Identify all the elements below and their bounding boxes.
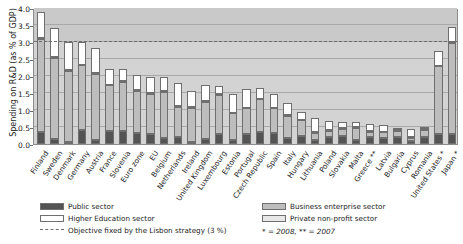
chart-legend: Public sectorHigher Education sectorObje… <box>0 200 463 244</box>
bar-segment <box>160 77 169 92</box>
bar-segment <box>91 140 100 144</box>
bar-segment <box>338 122 347 128</box>
bar-column[interactable] <box>133 75 142 144</box>
legend-item[interactable]: Objective fixed by the Lisbon strategy (… <box>40 226 226 235</box>
bar-column[interactable] <box>105 69 114 144</box>
bar-segment <box>78 130 87 144</box>
bar-segment <box>434 134 443 144</box>
bar-segment <box>133 133 142 144</box>
legend-item[interactable]: Private non-profit sector <box>262 214 377 223</box>
y-tick-label: 3.0 <box>4 39 30 48</box>
bar-segment <box>270 133 279 144</box>
bar-column[interactable] <box>352 122 361 144</box>
bar-segment <box>160 138 169 144</box>
bar-segment <box>297 112 306 119</box>
bar-column[interactable] <box>201 85 210 144</box>
bar-segment <box>215 86 224 95</box>
bar-segment <box>229 94 238 113</box>
bar-segment <box>270 94 279 107</box>
bar-segment <box>366 132 375 137</box>
legend-label: Private non-profit sector <box>290 214 377 223</box>
bar-column[interactable] <box>325 121 334 144</box>
bar-segment <box>242 134 251 144</box>
bar-column[interactable] <box>393 129 402 144</box>
legend-label: Objective fixed by the Lisbon strategy (… <box>68 226 226 235</box>
bar-column[interactable] <box>366 124 375 144</box>
bar-segment <box>37 39 46 133</box>
bar-segment <box>448 134 457 144</box>
bar-segment <box>434 51 443 66</box>
plot-area <box>33 9 458 145</box>
bar-segment <box>50 58 59 140</box>
bar-column[interactable] <box>297 112 306 144</box>
y-axis-ticks: 0.00.51.01.52.02.53.03.54.0 <box>0 0 30 146</box>
legend-item[interactable]: Higher Education sector <box>40 214 155 223</box>
bar-column[interactable] <box>448 27 457 144</box>
bar-column[interactable] <box>91 48 100 144</box>
bar-column[interactable] <box>160 77 169 144</box>
bar-segment <box>311 140 320 144</box>
bar-column[interactable] <box>256 88 265 144</box>
bar-segment <box>297 136 306 144</box>
bar-segment <box>229 113 238 139</box>
bar-segment <box>448 27 457 42</box>
bar-column[interactable] <box>311 118 320 144</box>
bar-segment <box>174 83 183 106</box>
bar-segment <box>119 82 128 131</box>
bar-column[interactable] <box>174 83 183 144</box>
bar-column[interactable] <box>215 86 224 144</box>
legend-item[interactable]: Public sector <box>40 202 114 211</box>
bar-segment <box>283 103 292 115</box>
bar-segment <box>420 137 429 144</box>
y-tick-label: 0.0 <box>4 141 30 150</box>
rd-spending-chart: Spending on R&D (as % of GDP) 0.00.51.01… <box>0 0 463 244</box>
bar-column[interactable] <box>229 94 238 144</box>
bar-column[interactable] <box>37 12 46 144</box>
bar-column[interactable] <box>119 69 128 144</box>
bar-segment <box>325 137 334 144</box>
bar-segment <box>91 74 100 140</box>
bar-column[interactable] <box>50 28 59 144</box>
bar-segment <box>283 138 292 144</box>
bar-segment <box>393 131 402 136</box>
bar-segment <box>325 131 334 137</box>
legend-swatch-icon <box>40 215 64 222</box>
bar-column[interactable] <box>379 125 388 144</box>
bar-segment <box>311 118 320 132</box>
bar-segment <box>338 136 347 145</box>
bar-column[interactable] <box>434 51 443 144</box>
bar-column[interactable] <box>338 122 347 144</box>
bar-segment <box>297 120 306 136</box>
bar-segment <box>187 91 196 107</box>
legend-item[interactable]: Business enterprise sector <box>262 202 385 211</box>
bar-column[interactable] <box>270 94 279 144</box>
bar-column[interactable] <box>64 42 73 144</box>
bar-column[interactable] <box>407 129 416 144</box>
bar-column[interactable] <box>78 42 87 144</box>
legend-label: Higher Education sector <box>68 214 155 223</box>
y-tick-mark <box>30 145 33 146</box>
bar-segment <box>366 124 375 131</box>
legend-swatch-icon <box>262 215 286 222</box>
bar-segment <box>174 137 183 144</box>
bar-column[interactable] <box>242 89 251 144</box>
bar-segment <box>242 108 251 134</box>
y-tick-label: 0.5 <box>4 124 30 133</box>
bar-column[interactable] <box>187 91 196 144</box>
bar-segment <box>407 138 416 142</box>
bar-segment <box>379 132 388 137</box>
bar-segment <box>420 130 429 136</box>
bar-column[interactable] <box>146 77 155 144</box>
y-tick-label: 1.0 <box>4 107 30 116</box>
bar-column[interactable] <box>283 103 292 144</box>
y-tick-label: 3.5 <box>4 22 30 31</box>
y-tick-label: 1.5 <box>4 90 30 99</box>
bar-segment <box>434 66 443 134</box>
bar-segment <box>64 42 73 70</box>
bar-segment <box>187 108 196 142</box>
bar-segment <box>133 91 142 134</box>
bar-segment <box>352 140 361 144</box>
bar-segment <box>256 99 265 131</box>
bar-segment <box>50 139 59 144</box>
bar-column[interactable] <box>420 128 429 144</box>
